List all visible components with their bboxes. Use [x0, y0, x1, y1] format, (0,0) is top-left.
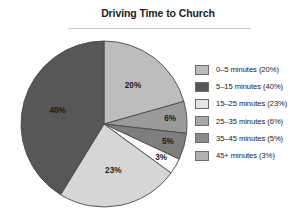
legend-item-label: 0–5 minutes (20%)	[216, 65, 279, 74]
legend-swatch	[195, 99, 209, 109]
pie-slice-label: 40%	[50, 106, 67, 115]
legend-item-label: 25–35 minutes (6%)	[216, 117, 283, 126]
legend-swatch	[195, 151, 209, 161]
title-divider	[68, 28, 251, 29]
legend-item[interactable]: 35–45 minutes (5%)	[195, 130, 303, 147]
legend-swatch	[195, 133, 209, 143]
chart-title: Driving Time to Church	[60, 7, 256, 19]
pie-chart-svg: 20%6%5%3%23%40%	[20, 40, 188, 208]
legend-item[interactable]: 0–5 minutes (20%)	[195, 61, 303, 78]
legend-item-label: 5–15 minutes (40%)	[216, 82, 283, 91]
legend-item[interactable]: 45+ minutes (3%)	[195, 147, 303, 164]
legend-swatch	[195, 116, 209, 126]
legend-item-label: 15–25 minutes (23%)	[216, 99, 287, 108]
chart-legend: 0–5 minutes (20%)5–15 minutes (40%)15–25…	[195, 61, 303, 164]
pie-chart-plot-area: 20%6%5%3%23%40%	[20, 40, 188, 208]
pie-slice-group	[21, 41, 187, 207]
legend-item-label: 45+ minutes (3%)	[216, 151, 275, 160]
legend-item-label: 35–45 minutes (5%)	[216, 134, 283, 143]
legend-item[interactable]: 25–35 minutes (6%)	[195, 113, 303, 130]
pie-slice-label: 3%	[155, 153, 168, 162]
pie-slice-label: 20%	[125, 81, 142, 90]
chart-figure: Driving Time to Church 20%6%5%3%23%40% 0…	[0, 0, 307, 218]
pie-slice-label: 5%	[162, 137, 175, 146]
legend-item[interactable]: 15–25 minutes (23%)	[195, 95, 303, 112]
legend-swatch	[195, 82, 209, 92]
legend-swatch	[195, 65, 209, 75]
pie-slice-label: 23%	[105, 166, 122, 175]
pie-slice-label: 6%	[164, 114, 177, 123]
legend-item[interactable]: 5–15 minutes (40%)	[195, 78, 303, 95]
